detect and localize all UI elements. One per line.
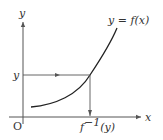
function-curve [31, 28, 117, 107]
y-value-label: y [12, 69, 20, 82]
horizontal-arrowhead [55, 73, 60, 77]
curve-label: y = f(x) [107, 14, 149, 27]
x-axis-label: x [145, 111, 152, 124]
inverse-label: f−1(y) [79, 116, 115, 134]
inverse-function-diagram: y x O y y = f(x) f−1(y) [0, 0, 163, 140]
y-axis-label: y [18, 7, 26, 20]
origin-label: O [13, 120, 22, 133]
